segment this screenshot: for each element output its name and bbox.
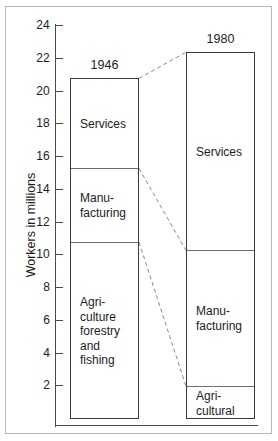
bar-1946[interactable]: ServicesManu- facturingAgri- culture for… <box>70 78 139 419</box>
y-tick-label: 24 <box>0 18 50 32</box>
y-tick-mark <box>56 25 63 26</box>
y-tick-mark <box>56 254 63 255</box>
bar-1980-segment-label-agricultural: Agri- cultural <box>187 389 235 418</box>
y-tick-mark <box>56 123 63 124</box>
y-tick-mark <box>56 353 63 354</box>
bar-1946-segment-services[interactable]: Services <box>71 79 138 169</box>
x-axis-baseline <box>55 425 258 426</box>
bar-1946-title: 1946 <box>70 58 139 72</box>
y-tick-label: 2 <box>0 378 50 392</box>
chart-figure: 24222018161412108642 Workers in millions… <box>0 0 278 441</box>
y-axis-line <box>55 24 56 427</box>
bar-1980-segment-manufacturing[interactable]: Manu- facturing <box>187 251 254 387</box>
bar-1980-segment-label-services: Services <box>187 145 242 160</box>
y-tick-label: 20 <box>0 84 50 98</box>
bar-1946-segment-label-manufacturing: Manu- facturing <box>71 191 126 220</box>
plot-area: 24222018161412108642 Workers in millions… <box>0 0 278 441</box>
connector-total-top <box>139 52 186 78</box>
y-tick-mark <box>56 320 63 321</box>
connector-manufacturing-bottom <box>139 242 186 386</box>
bar-1980-title: 1980 <box>186 32 255 46</box>
bar-1946-segment-manufacturing[interactable]: Manu- facturing <box>71 169 138 243</box>
bar-1980-segment-services[interactable]: Services <box>187 53 254 251</box>
bar-1946-segment-label-services: Services <box>71 117 126 132</box>
y-tick-mark <box>56 156 63 157</box>
bar-1980[interactable]: ServicesManu- facturingAgri- cultural <box>186 52 255 419</box>
y-tick-mark <box>56 287 63 288</box>
y-tick-mark <box>56 189 63 190</box>
y-tick-mark <box>56 222 63 223</box>
y-tick-mark <box>56 91 63 92</box>
y-tick-mark <box>56 385 63 386</box>
y-tick-mark <box>56 58 63 59</box>
bar-1980-segment-agricultural[interactable]: Agri- cultural <box>187 387 254 420</box>
y-tick-label: 22 <box>0 51 50 65</box>
connector-services-bottom <box>139 168 186 250</box>
y-tick-label: 18 <box>0 116 50 130</box>
bar-1946-segment-agriculture[interactable]: Agri- culture forestry and fishing <box>71 243 138 420</box>
bar-1946-segment-label-agriculture: Agri- culture forestry and fishing <box>71 295 120 368</box>
y-tick-label: 4 <box>0 346 50 360</box>
y-axis-title: Workers in millions <box>24 135 38 315</box>
bar-1980-segment-label-manufacturing: Manu- facturing <box>187 304 242 333</box>
